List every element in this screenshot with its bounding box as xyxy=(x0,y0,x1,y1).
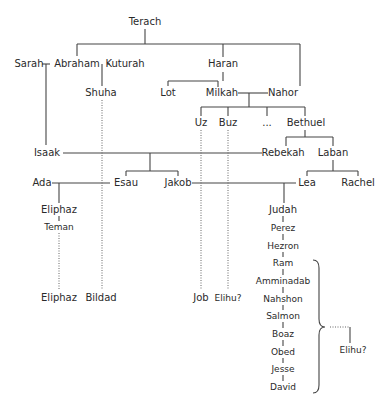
node-ram: Ram xyxy=(273,257,293,269)
node-jakob: Jakob xyxy=(165,177,192,189)
node-uz: Uz xyxy=(195,117,208,129)
node-david: David xyxy=(270,381,296,393)
node-obed: Obed xyxy=(271,346,295,358)
node-nahor: Nahor xyxy=(268,87,298,99)
node-jesse: Jesse xyxy=(271,363,294,375)
node-milkah: Milkah xyxy=(206,87,238,99)
node-amminadab: Amminadab xyxy=(256,275,310,287)
node-eliphaz-friend-of-job: Eliphaz xyxy=(41,292,77,304)
node-esau: Esau xyxy=(114,177,138,189)
node-terach: Terach xyxy=(129,16,162,28)
node-sarah: Sarah xyxy=(14,58,43,70)
node-bethuel: Bethuel xyxy=(287,117,326,129)
node-lot: Lot xyxy=(160,87,175,99)
node-laban: Laban xyxy=(318,147,349,159)
node-rebekah: Rebekah xyxy=(261,147,304,159)
node-kuturah: Kuturah xyxy=(105,58,144,70)
node-shuha: Shuha xyxy=(85,87,117,99)
node-elihu-from-buz: Elihu? xyxy=(215,292,242,304)
node-perez: Perez xyxy=(271,222,295,234)
node-judah: Judah xyxy=(269,204,297,216)
node-lea: Lea xyxy=(298,177,316,189)
node-hezron: Hezron xyxy=(267,240,299,252)
node-teman: Teman xyxy=(44,221,74,233)
solid-connectors xyxy=(42,29,358,381)
node-bildad: Bildad xyxy=(85,292,116,304)
node-job: Job xyxy=(193,292,208,304)
node-ellipsis: ... xyxy=(262,117,272,129)
node-haran: Haran xyxy=(208,58,238,70)
node-boaz: Boaz xyxy=(272,328,294,340)
node-nahshon: Nahshon xyxy=(263,293,303,305)
node-eliphaz-son-of-esau: Eliphaz xyxy=(41,204,77,216)
node-salmon: Salmon xyxy=(266,310,300,322)
node-buz: Buz xyxy=(219,117,237,129)
node-ada: Ada xyxy=(32,177,51,189)
node-isaak: Isaak xyxy=(34,147,60,159)
node-elihu-from-judah-line: Elihu? xyxy=(340,344,367,356)
node-abraham: Abraham xyxy=(54,58,100,70)
node-rachel: Rachel xyxy=(341,177,375,189)
curly-brace xyxy=(313,260,325,393)
